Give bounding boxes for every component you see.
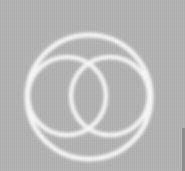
logo-image — [0, 0, 185, 171]
outer-ring — [27, 35, 151, 159]
inner-right-ring — [71, 57, 149, 135]
edge-strip — [182, 128, 185, 171]
inner-left-ring — [28, 57, 106, 135]
rings-graphic — [0, 0, 185, 171]
